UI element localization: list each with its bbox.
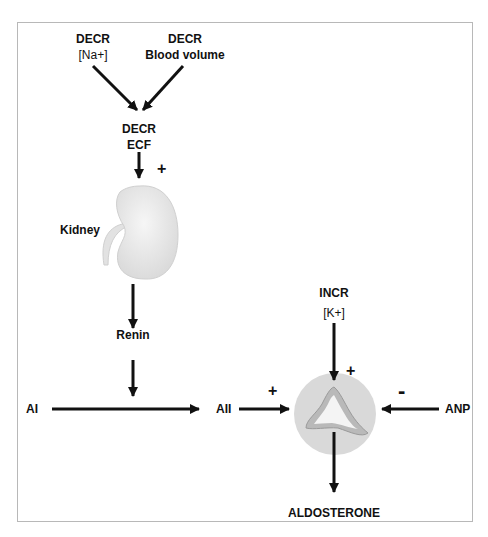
- label-renin: Renin: [115, 327, 151, 343]
- arrow-blood-to-ecf: [143, 66, 183, 110]
- label-incr-k-line1: INCR: [309, 283, 359, 303]
- sign-ecf-to-kidney: +: [157, 161, 166, 177]
- label-decr-na-line2: [Na+]: [68, 47, 118, 63]
- sign-k-to-adrenal: +: [346, 363, 355, 379]
- label-ai: AI: [26, 401, 38, 417]
- label-decr-blood-volume: DECR Blood volume: [135, 31, 235, 63]
- label-decr-blood-line1: DECR: [135, 31, 235, 47]
- arrow-na-to-ecf: [93, 66, 137, 110]
- label-decr-ecf-line2: ECF: [114, 137, 164, 153]
- sign-anp-to-adrenal: -: [398, 383, 405, 399]
- sign-aii-to-adrenal: +: [268, 383, 277, 399]
- label-aldosterone: ALDOSTERONE: [284, 505, 384, 521]
- label-aii: AII: [216, 401, 231, 417]
- diagram-canvas: [0, 0, 488, 537]
- label-decr-na-line1: DECR: [68, 31, 118, 47]
- label-incr-k: INCR [K+]: [309, 283, 359, 323]
- label-decr-ecf-line1: DECR: [114, 121, 164, 137]
- label-decr-blood-line2: Blood volume: [135, 47, 235, 63]
- label-anp: ANP: [445, 401, 470, 417]
- kidney-icon: [103, 186, 178, 279]
- label-kidney: Kidney: [60, 222, 100, 238]
- label-decr-ecf: DECR ECF: [114, 121, 164, 153]
- label-decr-na: DECR [Na+]: [68, 31, 118, 63]
- label-incr-k-line2: [K+]: [309, 303, 359, 323]
